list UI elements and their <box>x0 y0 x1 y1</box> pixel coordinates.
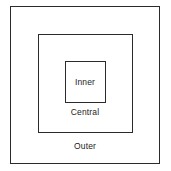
diagram-canvas: Inner Central Outer <box>0 0 171 171</box>
outer-region-label: Outer <box>74 141 96 151</box>
central-region-label: Central <box>71 107 99 117</box>
inner-region-label: Inner <box>75 77 95 87</box>
